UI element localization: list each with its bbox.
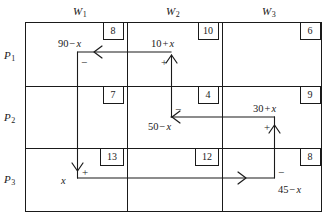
column-header-w1: W1 <box>73 6 87 19</box>
allocation-p3w1: x <box>61 176 66 187</box>
loop-sign-p1w1: − <box>81 57 87 68</box>
transportation-tableau: W1 W2 W3 P1 P2 P3 8 10 6 7 4 9 13 12 8 9… <box>0 0 330 218</box>
row-header-p3: P3 <box>4 174 15 187</box>
row-header-p3-label: P <box>4 173 11 185</box>
loop-sign-p3w1: + <box>82 167 88 178</box>
allocation-p3w3-var: x <box>296 184 301 195</box>
column-header-w1-label: W <box>73 5 82 17</box>
cost-p3w3: 8 <box>300 152 320 162</box>
row-header-p1-label: P <box>4 49 11 61</box>
column-header-w2: W2 <box>166 6 180 19</box>
allocation-p1w2-num: 10 <box>151 38 162 49</box>
cost-p1w1: 8 <box>103 26 123 36</box>
allocation-p3w3-num: 45 <box>278 184 289 195</box>
loop-sign-p1w2: + <box>161 57 167 68</box>
allocation-p1w1-var: x <box>76 38 81 49</box>
row-header-p1: P1 <box>4 50 15 63</box>
row-header-p1-sub: 1 <box>11 54 16 63</box>
cost-p1w3: 6 <box>300 26 320 36</box>
row-header-p2-label: P <box>4 111 11 123</box>
column-header-w2-label: W <box>166 5 175 17</box>
allocation-p2w2-num: 50 <box>148 121 159 132</box>
loop-sign-p3w3: − <box>278 167 284 178</box>
allocation-p1w2: 10+x <box>151 39 174 50</box>
column-header-w2-sub: 2 <box>175 10 180 19</box>
allocation-p3w1-var: x <box>61 175 66 186</box>
allocation-p1w2-var: x <box>169 38 174 49</box>
allocation-p2w3-num: 30 <box>253 103 264 114</box>
allocation-p3w3: 45−x <box>278 185 301 196</box>
allocation-p2w2-var: x <box>166 121 171 132</box>
loop-sign-p2w3: + <box>264 122 270 133</box>
allocation-p2w3-var: x <box>271 103 276 114</box>
cost-p3w2: 12 <box>196 152 218 162</box>
column-header-w3-label: W <box>262 5 271 17</box>
cost-p3w1: 13 <box>101 152 123 162</box>
allocation-p1w1: 90−x <box>58 39 81 50</box>
column-header-w1-sub: 1 <box>82 10 87 19</box>
allocation-p2w2: 50−x <box>148 122 171 133</box>
row-header-p2-sub: 2 <box>11 116 16 125</box>
allocation-p1w1-num: 90 <box>58 38 69 49</box>
column-header-w3: W3 <box>262 6 276 19</box>
cost-p1w2: 10 <box>198 26 218 36</box>
cost-p2w2: 4 <box>198 90 218 100</box>
cost-p2w3: 9 <box>300 90 320 100</box>
column-header-w3-sub: 3 <box>271 10 276 19</box>
cost-p2w1: 7 <box>103 90 123 100</box>
loop-sign-p2w2: − <box>175 104 181 115</box>
row-header-p3-sub: 3 <box>11 178 16 187</box>
allocation-p2w3: 30+x <box>253 104 276 115</box>
row-header-p2: P2 <box>4 112 15 125</box>
